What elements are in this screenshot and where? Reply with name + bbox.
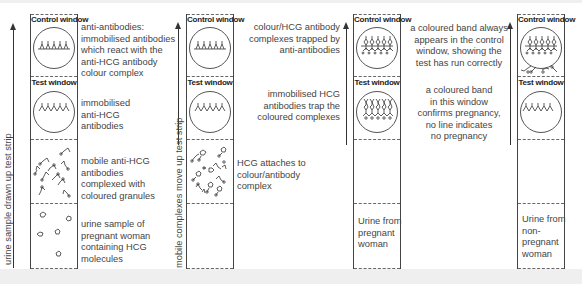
strip4-symbols xyxy=(0,0,582,284)
diagram-panel: urine sample drawn up test strip Control… xyxy=(0,3,582,269)
